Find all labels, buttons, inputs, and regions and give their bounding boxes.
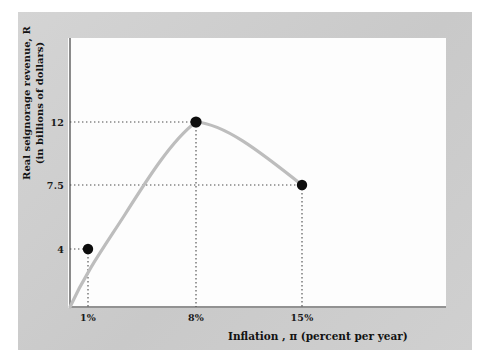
x-tick-label-8pct: 8% [176, 312, 216, 323]
x-tick-label-1pct: 1% [68, 312, 108, 323]
x-axis-label: Inflation , π (percent per year) [228, 330, 408, 342]
data-point-1pct [83, 244, 93, 254]
seignorage-curve [70, 122, 302, 307]
y-axis-label: Real seignorage revenue, R (in billions … [16, 8, 50, 198]
chart-svg [0, 0, 489, 364]
y-axis-label-line2: (in billions of dollars) [33, 42, 46, 164]
x-tick-label-15pct: 15% [282, 312, 322, 323]
data-point-8pct [190, 116, 201, 127]
figure-root: 12 7.5 4 1% 8% 15% Real seignorage reven… [0, 0, 489, 364]
y-tick-label-4: 4 [34, 244, 64, 255]
data-point-15pct [297, 180, 307, 190]
y-axis-label-line1: Real seignorage revenue, R [20, 26, 33, 180]
